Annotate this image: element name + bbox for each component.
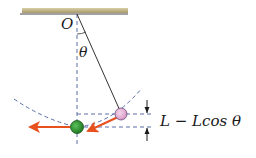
angle-label: θ bbox=[79, 44, 88, 60]
ceiling-hatch bbox=[22, 8, 128, 13]
ball-lowest bbox=[71, 121, 84, 134]
pendulum-string bbox=[77, 14, 121, 113]
dimension-arrowhead-bottom bbox=[145, 128, 150, 134]
height-label: L − Lcos θ bbox=[159, 112, 241, 130]
ceiling bbox=[20, 8, 128, 14]
pivot-label: O bbox=[61, 15, 73, 33]
dimension-arrowhead-top bbox=[145, 107, 150, 113]
ball-displaced bbox=[115, 108, 127, 120]
pendulum-diagram: O θ L − Lcos θ bbox=[0, 0, 256, 158]
